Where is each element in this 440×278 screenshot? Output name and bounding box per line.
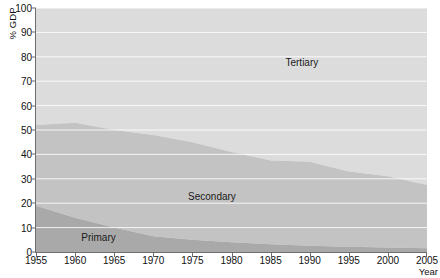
y-tick-label-80: 80 [2, 51, 32, 62]
y-tick-label-30: 30 [2, 173, 32, 184]
y-tick-label-100: 100 [2, 3, 32, 14]
x-tick-mark-2000 [388, 253, 389, 257]
series-label-secondary: Secondary [188, 190, 236, 201]
x-tick-mark-1955 [36, 253, 37, 257]
x-tick-mark-1965 [114, 253, 115, 257]
x-tick-mark-1970 [153, 253, 154, 257]
series-label-tertiary: Tertiary [285, 56, 318, 67]
y-axis-ticks: 0102030405060708090100 [0, 0, 32, 278]
y-tick-label-70: 70 [2, 76, 32, 87]
x-axis-title: Year [419, 266, 438, 277]
x-tick-label-2005: 2005 [416, 255, 438, 266]
x-tick-mark-1960 [75, 253, 76, 257]
y-tick-label-40: 40 [2, 149, 32, 160]
x-tick-mark-1975 [192, 253, 193, 257]
y-tick-label-90: 90 [2, 27, 32, 38]
y-tick-label-60: 60 [2, 100, 32, 111]
y-axis-line [35, 8, 36, 253]
area-series-svg [36, 8, 427, 252]
stacked-area-chart: % GDP 0102030405060708090100 The sustain… [0, 0, 440, 278]
y-tick-label-10: 10 [2, 222, 32, 233]
x-tick-mark-1990 [310, 253, 311, 257]
x-tick-mark-1985 [271, 253, 272, 257]
y-tick-label-20: 20 [2, 198, 32, 209]
y-tick-label-50: 50 [2, 125, 32, 136]
series-label-primary: Primary [81, 232, 115, 243]
plot-area: The sustainable management of resources [36, 8, 427, 252]
x-tick-mark-2005 [426, 253, 427, 257]
x-tick-mark-1995 [349, 253, 350, 257]
x-tick-mark-1980 [232, 253, 233, 257]
